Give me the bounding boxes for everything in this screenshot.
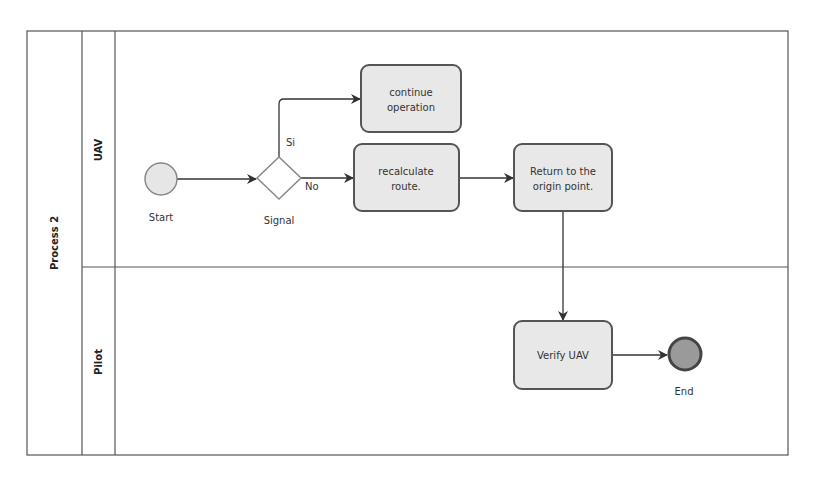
gateway-diamond-icon	[257, 157, 301, 199]
gateway-no-label: No	[305, 181, 319, 192]
task-box	[354, 144, 459, 211]
task-label-line2: route.	[391, 181, 421, 192]
bpmn-diagram: Process 2 UAV Pilot Start Signal Si No c…	[0, 0, 815, 477]
start-label: Start	[149, 212, 174, 223]
gateway-label: Signal	[264, 215, 295, 226]
gateway-signal[interactable]: Signal Si No	[257, 137, 319, 226]
sequence-flows	[177, 99, 667, 355]
task-verify-uav[interactable]: Verify UAV	[514, 321, 612, 389]
task-label-line1: Return to the	[530, 166, 596, 177]
task-continue-operation[interactable]: continue operation	[361, 65, 461, 132]
task-box	[361, 65, 461, 132]
gateway-yes-label: Si	[286, 137, 295, 148]
task-label-line2: origin point.	[533, 181, 593, 192]
start-circle-icon	[145, 163, 177, 195]
end-circle-icon	[669, 338, 701, 370]
lane-label-pilot: Pilot	[93, 349, 104, 375]
flow-signal-yes	[279, 99, 360, 157]
end-event[interactable]: End	[669, 338, 701, 397]
task-label-line1: continue	[389, 87, 432, 98]
task-label-line1: Verify UAV	[537, 350, 589, 361]
task-return-origin[interactable]: Return to the origin point.	[514, 144, 612, 211]
pool-label: Process 2	[49, 216, 60, 270]
task-box	[514, 144, 612, 211]
task-recalculate-route[interactable]: recalculate route.	[354, 144, 459, 211]
task-label-line2: operation	[387, 102, 435, 113]
task-label-line1: recalculate	[378, 166, 433, 177]
end-label: End	[674, 386, 693, 397]
lane-label-uav: UAV	[93, 138, 104, 161]
start-event[interactable]: Start	[145, 163, 177, 223]
